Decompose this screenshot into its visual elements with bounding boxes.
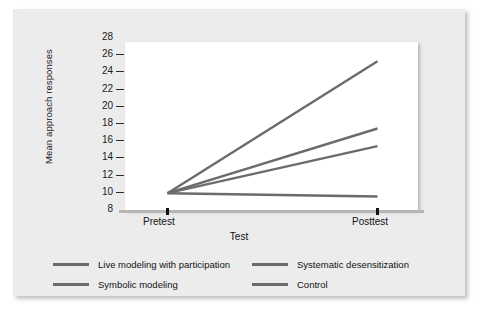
y-tick-mark-26: [116, 54, 124, 55]
series-line-live-modeling-with-participation: [168, 61, 378, 193]
y-tick-label-22: 22: [87, 85, 113, 93]
y-tick-mark-20: [116, 106, 124, 107]
legend-label-live-modeling-with-participation: Live modeling with participation: [98, 259, 230, 270]
y-tick-label-20: 20: [87, 102, 113, 110]
y-tick-label-26: 26: [87, 50, 113, 58]
legend-item-control[interactable]: Control: [252, 277, 328, 291]
legend-swatch-symbolic-modeling: [53, 283, 89, 286]
series-lines: [125, 42, 418, 210]
y-axis-tick-marks: [116, 37, 125, 209]
y-tick-mark-10: [116, 192, 124, 193]
plot-canvas: [125, 42, 418, 210]
plot-block: Mean approach responses 28 26 24 22 20 1…: [13, 9, 465, 234]
series-group: [168, 61, 378, 196]
x-axis-title: Test: [13, 231, 465, 242]
legend-item-live-modeling-with-participation[interactable]: Live modeling with participation: [53, 257, 230, 271]
y-tick-mark-22: [116, 89, 124, 90]
y-tick-label-16: 16: [87, 136, 113, 144]
figure: Mean approach responses 28 26 24 22 20 1…: [0, 0, 482, 309]
y-axis-tick-labels: 28 26 24 22 20 18 16 14 12 10 8: [87, 37, 113, 209]
legend: Live modeling with participation Symboli…: [13, 255, 465, 299]
x-tick-mark-posttest: [376, 208, 379, 215]
legend-label-control: Control: [297, 279, 328, 290]
legend-swatch-control: [252, 283, 288, 286]
x-tick-mark-pretest: [166, 208, 169, 215]
y-tick-mark-24: [116, 71, 124, 72]
y-tick-label-12: 12: [87, 171, 113, 179]
legend-item-systematic-desensitization[interactable]: Systematic desensitization: [252, 257, 409, 271]
legend-item-symbolic-modeling[interactable]: Symbolic modeling: [53, 277, 178, 291]
series-line-systematic-desensitization: [168, 146, 378, 193]
x-tick-label-pretest: Pretest: [143, 216, 175, 227]
y-tick-label-28: 28: [87, 33, 113, 41]
legend-swatch-live-modeling-with-participation: [53, 263, 89, 266]
y-tick-label-8: 8: [87, 205, 113, 213]
y-tick-label-18: 18: [87, 119, 113, 127]
y-tick-label-10: 10: [87, 188, 113, 196]
y-tick-label-24: 24: [87, 67, 113, 75]
y-tick-mark-12: [116, 175, 124, 176]
series-line-symbolic-modeling: [168, 129, 378, 194]
legend-label-systematic-desensitization: Systematic desensitization: [297, 259, 409, 270]
y-tick-mark-14: [116, 157, 124, 158]
legend-label-symbolic-modeling: Symbolic modeling: [98, 279, 178, 290]
y-tick-mark-18: [116, 123, 124, 124]
chart-panel: Mean approach responses 28 26 24 22 20 1…: [13, 9, 465, 296]
y-axis-title: Mean approach responses: [43, 27, 54, 187]
x-tick-label-posttest: Posttest: [352, 216, 388, 227]
legend-swatch-systematic-desensitization: [252, 263, 288, 266]
y-tick-mark-16: [116, 140, 124, 141]
y-tick-label-14: 14: [87, 153, 113, 161]
series-line-control: [168, 193, 378, 196]
